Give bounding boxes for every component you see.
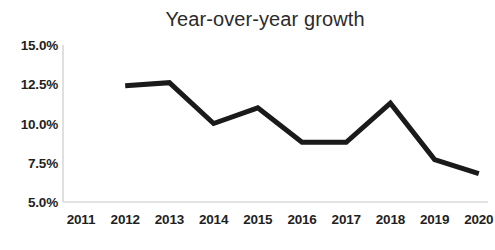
y-tick-label: 10.0%	[21, 116, 58, 131]
x-tick-label: 2013	[155, 212, 184, 227]
x-tick-label: 2011	[67, 212, 96, 227]
x-tick-label: 2019	[420, 212, 449, 227]
x-tick-label: 2014	[199, 212, 228, 227]
x-tick-label: 2015	[243, 212, 272, 227]
x-tick-label: 2018	[376, 212, 405, 227]
x-tick-label: 2016	[287, 212, 316, 227]
y-tick-label: 7.5%	[28, 155, 58, 170]
x-tick-label: 2017	[332, 212, 361, 227]
y-tick-label: 12.5%	[21, 77, 58, 92]
y-tick-label: 15.0%	[21, 38, 58, 53]
y-tick-label: 5.0%	[28, 195, 58, 210]
x-tick-label: 2020	[464, 212, 493, 227]
x-tick-label: 2012	[111, 212, 140, 227]
data-series-line	[125, 83, 479, 174]
chart-container: Year-over-year growth 5.0%7.5%10.0%12.5%…	[0, 0, 495, 250]
